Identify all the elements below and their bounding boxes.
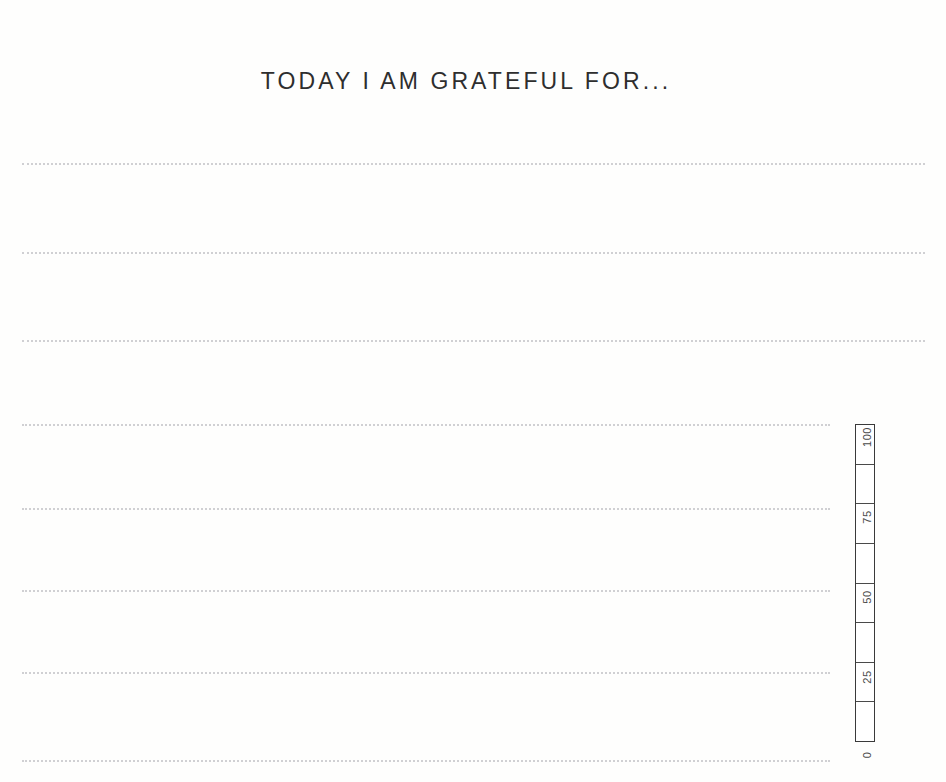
writing-line[interactable] [22,252,925,256]
scale-tick-label: 50 [861,584,873,610]
scale-tick-label: 75 [861,504,873,530]
writing-line[interactable] [22,508,830,512]
scale-tick-label: 100 [861,424,873,450]
writing-line[interactable] [22,163,925,167]
writing-line[interactable] [22,672,830,676]
page-title: TODAY I AM GRATEFUL FOR... [0,68,932,95]
scale-tick-label: 0 [861,742,873,768]
journal-page: TODAY I AM GRATEFUL FOR... 1007550250 HA… [0,0,946,782]
scale-segment[interactable] [856,465,874,505]
scale-segment[interactable] [856,623,874,663]
writing-line[interactable] [22,424,830,428]
writing-line[interactable] [22,760,830,764]
happiness-scale-bar[interactable] [855,424,875,742]
scale-segment[interactable] [856,702,874,741]
scale-tick-label: 25 [861,664,873,690]
writing-line[interactable] [22,340,925,344]
scale-axis-title: HAPPINESS SCALE (%) [886,423,912,741]
happiness-scale-widget[interactable]: 1007550250 HAPPINESS SCALE (%) [830,415,946,755]
writing-line[interactable] [22,590,830,594]
scale-segment[interactable] [856,544,874,584]
